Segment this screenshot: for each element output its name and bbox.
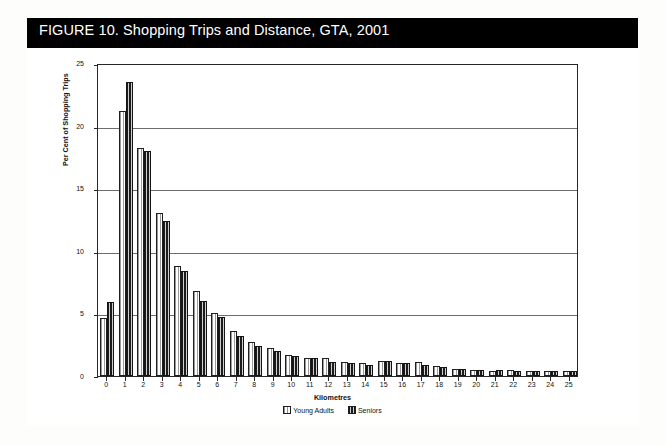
bar-young-adults-10 <box>285 355 292 376</box>
y-tick-mark <box>94 128 98 129</box>
bar-young-adults-12 <box>322 358 329 376</box>
x-tick-label: 16 <box>398 381 406 388</box>
bar-young-adults-2 <box>137 148 144 376</box>
bar-young-adults-9 <box>267 348 274 376</box>
x-tick-label: 5 <box>197 381 201 388</box>
y-tick-mark <box>94 190 98 191</box>
y-tick-label: 10 <box>54 248 84 255</box>
bar-group <box>230 65 244 376</box>
bar-seniors-1 <box>126 82 133 376</box>
bar-seniors-14 <box>366 365 373 376</box>
bar-group <box>489 65 503 376</box>
bar-group <box>119 65 133 376</box>
bar-seniors-18 <box>440 367 447 376</box>
x-tick-label: 17 <box>417 381 425 388</box>
bar-young-adults-21 <box>489 371 496 376</box>
bar-seniors-4 <box>181 271 188 376</box>
bar-group <box>433 65 447 376</box>
bar-seniors-20 <box>477 370 484 376</box>
bar-group <box>322 65 336 376</box>
chart-canvas: Per Cent of Shopping Trips Kilometres Yo… <box>27 48 638 426</box>
bar-group <box>193 65 207 376</box>
x-tick-label: 0 <box>104 381 108 388</box>
bar-young-adults-23 <box>526 371 533 376</box>
bar-young-adults-6 <box>211 313 218 376</box>
x-tick-label: 2 <box>141 381 145 388</box>
x-tick-label: 8 <box>252 381 256 388</box>
bar-seniors-10 <box>292 356 299 376</box>
y-tick-label: 15 <box>54 185 84 192</box>
x-tick-label: 9 <box>271 381 275 388</box>
x-tick-label: 4 <box>178 381 182 388</box>
x-tick-label: 19 <box>454 381 462 388</box>
bar-young-adults-18 <box>433 366 440 376</box>
bar-young-adults-14 <box>359 363 366 376</box>
bar-young-adults-16 <box>396 363 403 376</box>
bar-seniors-17 <box>422 365 429 376</box>
y-tick-label: 5 <box>54 310 84 317</box>
x-tick-label: 25 <box>565 381 573 388</box>
x-tick-label: 21 <box>491 381 499 388</box>
bar-group <box>174 65 188 376</box>
x-tick-label: 6 <box>215 381 219 388</box>
x-tick-label: 23 <box>528 381 536 388</box>
bar-young-adults-5 <box>193 291 200 376</box>
y-tick-label: 25 <box>54 60 84 67</box>
bar-group <box>285 65 299 376</box>
bar-young-adults-1 <box>119 111 126 376</box>
bar-seniors-2 <box>144 151 151 376</box>
bar-seniors-3 <box>163 221 170 376</box>
chart-legend: Young AdultsSeniors <box>27 406 638 414</box>
bar-young-adults-25 <box>563 371 570 376</box>
bar-seniors-19 <box>459 369 466 377</box>
bar-seniors-24 <box>551 371 558 376</box>
bar-group <box>267 65 281 376</box>
bar-group <box>544 65 558 376</box>
bar-group <box>526 65 540 376</box>
bar-group <box>359 65 373 376</box>
bar-young-adults-0 <box>100 318 107 376</box>
x-tick-label: 24 <box>546 381 554 388</box>
figure-title-bar: FIGURE 10. Shopping Trips and Distance, … <box>27 18 638 48</box>
bar-young-adults-20 <box>470 370 477 376</box>
bar-seniors-6 <box>218 317 225 376</box>
bar-group <box>396 65 410 376</box>
page-title: FIGURE 10. Shopping Trips and Distance, … <box>39 22 389 38</box>
x-tick-label: 11 <box>306 381 313 388</box>
y-tick-mark <box>94 253 98 254</box>
bar-group <box>415 65 429 376</box>
legend-item-seniors: Seniors <box>348 406 382 414</box>
bar-group <box>211 65 225 376</box>
bar-seniors-0 <box>107 302 114 376</box>
bar-young-adults-7 <box>230 331 237 376</box>
bar-young-adults-4 <box>174 266 181 376</box>
x-axis-title: Kilometres <box>27 393 638 402</box>
y-tick-mark <box>94 377 98 378</box>
bar-group <box>378 65 392 376</box>
y-tick-label: 0 <box>54 373 84 380</box>
bar-group <box>452 65 466 376</box>
x-tick-label: 22 <box>509 381 517 388</box>
legend-label: Young Adults <box>293 407 334 414</box>
x-tick-label: 18 <box>435 381 443 388</box>
x-tick-label: 14 <box>361 381 369 388</box>
x-tick-label: 12 <box>324 381 332 388</box>
bar-seniors-12 <box>329 362 336 376</box>
bar-group <box>304 65 318 376</box>
bar-seniors-23 <box>533 371 540 376</box>
bar-young-adults-11 <box>304 358 311 376</box>
x-tick-label: 13 <box>343 381 351 388</box>
y-tick-mark <box>94 315 98 316</box>
bar-young-adults-24 <box>544 371 551 376</box>
bar-young-adults-13 <box>341 362 348 376</box>
x-tick-label: 20 <box>472 381 480 388</box>
legend-label: Seniors <box>358 407 382 414</box>
figure-page: FIGURE 10. Shopping Trips and Distance, … <box>0 0 666 445</box>
bar-group <box>100 65 114 376</box>
bar-seniors-7 <box>237 336 244 376</box>
bar-group <box>137 65 151 376</box>
bar-group <box>507 65 521 376</box>
x-tick-label: 10 <box>287 381 295 388</box>
bar-seniors-11 <box>311 358 318 376</box>
bar-young-adults-22 <box>507 370 514 376</box>
